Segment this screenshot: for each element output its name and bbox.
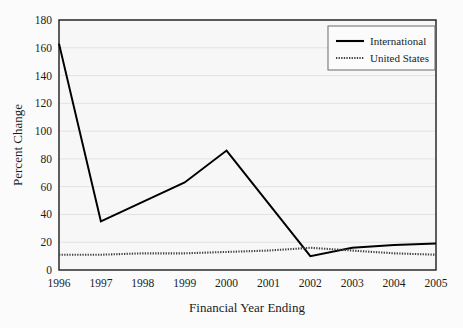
x-tick-label: 2002 — [299, 277, 322, 289]
y-tick-label: 160 — [35, 42, 53, 54]
x-tick-label: 1996 — [48, 277, 71, 289]
x-tick-label: 2005 — [425, 277, 448, 289]
y-tick-label: 0 — [46, 264, 52, 276]
x-tick-label: 2003 — [341, 277, 364, 289]
chart-figure: 020406080100120140160180 199619971998199… — [0, 0, 463, 328]
y-tick-label: 120 — [35, 97, 53, 109]
y-tick-label: 100 — [35, 125, 53, 137]
y-tick-label: 180 — [35, 14, 53, 26]
line-chart: 020406080100120140160180 199619971998199… — [0, 0, 463, 328]
y-tick-label: 40 — [41, 208, 53, 220]
chart-legend: International United States — [328, 26, 435, 70]
x-tick-label: 2001 — [257, 277, 280, 289]
y-tick-label: 60 — [41, 181, 53, 193]
x-tick-label: 2000 — [215, 277, 238, 289]
legend-label-international: International — [370, 35, 426, 47]
y-tick-label: 140 — [35, 70, 53, 82]
y-axis-title: Percent Change — [10, 104, 25, 186]
y-tick-label: 80 — [41, 153, 53, 165]
x-tick-label: 2004 — [383, 277, 406, 289]
x-tick-label: 1999 — [173, 277, 196, 289]
y-tick-label: 20 — [41, 236, 53, 248]
x-axis-title: Financial Year Ending — [189, 300, 305, 315]
x-tick-label: 1997 — [89, 277, 112, 289]
legend-label-united-states: United States — [370, 52, 429, 64]
x-tick-label: 1998 — [131, 277, 154, 289]
